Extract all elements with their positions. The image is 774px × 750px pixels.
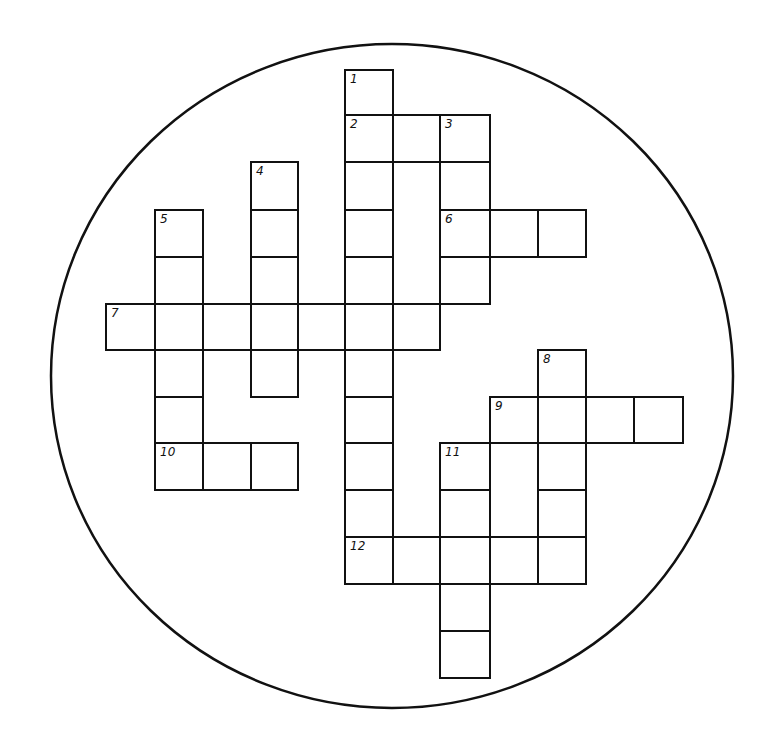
grid-cell[interactable] (392, 114, 441, 163)
grid-cell[interactable] (489, 209, 539, 258)
grid-cell[interactable]: 7 (105, 303, 156, 351)
grid-cell[interactable] (250, 349, 299, 398)
grid-cell[interactable]: 2 (344, 114, 394, 163)
grid-cell[interactable]: 11 (439, 442, 491, 491)
grid-cell[interactable]: 8 (537, 349, 587, 398)
clue-number: 11 (445, 445, 460, 459)
clue-number: 2 (350, 117, 358, 131)
clue-number: 1 (350, 72, 358, 86)
clue-number: 3 (445, 117, 453, 131)
grid-cell[interactable] (439, 630, 491, 679)
grid-cell[interactable]: 3 (439, 114, 491, 163)
grid-cell[interactable] (439, 161, 491, 211)
grid-cell[interactable] (250, 442, 299, 491)
grid-cell[interactable] (202, 442, 252, 491)
grid-cell[interactable] (392, 536, 441, 585)
grid-cell[interactable] (344, 303, 394, 351)
grid-cell[interactable] (537, 536, 587, 585)
crossword-puzzle: 121236451078911 (0, 0, 774, 750)
grid-cell[interactable] (250, 256, 299, 305)
grid-cell[interactable]: 4 (250, 161, 299, 211)
clue-number: 9 (495, 399, 503, 413)
grid-cell[interactable] (344, 396, 394, 444)
grid-cell[interactable] (439, 583, 491, 632)
grid-cell[interactable] (344, 489, 394, 538)
grid-cell[interactable] (537, 442, 587, 491)
grid-cell[interactable] (633, 396, 684, 444)
clue-number: 5 (160, 212, 168, 226)
grid-cell[interactable]: 5 (154, 209, 204, 258)
grid-cell[interactable]: 1 (344, 69, 394, 116)
grid-cell[interactable] (154, 303, 204, 351)
grid-cell[interactable] (154, 396, 204, 444)
clue-number: 10 (160, 445, 175, 459)
grid-cell[interactable] (297, 303, 346, 351)
grid-cell[interactable] (202, 303, 252, 351)
grid-cell[interactable] (585, 396, 635, 444)
clue-number: 4 (256, 164, 264, 178)
grid-cell[interactable]: 10 (154, 442, 204, 491)
grid-cell[interactable] (344, 442, 394, 491)
grid-cell[interactable] (439, 256, 491, 305)
grid-cell[interactable] (439, 489, 491, 538)
grid-cell[interactable] (250, 303, 299, 351)
grid-cell[interactable] (537, 396, 587, 444)
grid-cell[interactable] (344, 161, 394, 211)
grid-cell[interactable] (154, 256, 204, 305)
clue-number: 6 (445, 212, 453, 226)
grid-cell[interactable] (250, 209, 299, 258)
grid-cell[interactable] (344, 209, 394, 258)
grid-cell[interactable]: 12 (344, 536, 394, 585)
grid-cell[interactable] (537, 489, 587, 538)
grid-cell[interactable] (344, 256, 394, 305)
grid-cell[interactable] (154, 349, 204, 398)
grid-cell[interactable] (392, 303, 441, 351)
clue-number: 12 (350, 539, 365, 553)
grid-cell[interactable] (344, 349, 394, 398)
grid-cell[interactable]: 9 (489, 396, 539, 444)
grid-cell[interactable] (537, 209, 587, 258)
grid-cell[interactable] (489, 536, 539, 585)
clue-number: 7 (111, 306, 119, 320)
grid-cell[interactable] (439, 536, 491, 585)
clue-number: 8 (543, 352, 551, 366)
grid-cell[interactable]: 6 (439, 209, 491, 258)
